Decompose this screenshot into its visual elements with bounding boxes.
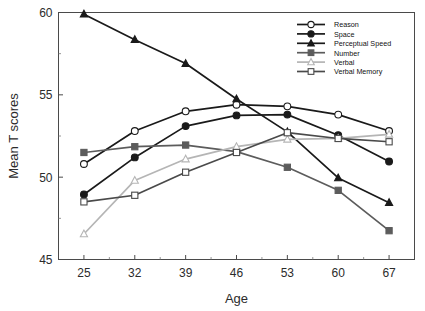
marker-square [335,135,341,141]
marker-circle [182,108,189,115]
legend-label: Number [334,49,360,58]
x-tick-label: 39 [179,266,193,280]
marker-square [386,228,392,234]
legend-label: Perceptual Speed [334,39,391,48]
chart-legend: ReasonSpacePerceptual SpeedNumberVerbalV… [297,20,391,76]
marker-triangle [233,95,240,102]
marker-circle [182,123,189,130]
y-axis-title: Mean T scores [6,93,21,179]
marker-circle [308,31,314,37]
marker-circle [284,111,291,118]
marker-square [132,144,138,150]
legend-label: Reason [334,20,359,29]
marker-square [183,142,189,148]
marker-circle [386,158,393,165]
marker-circle [233,101,240,108]
x-tick-label: 67 [382,266,396,280]
marker-circle [335,111,342,118]
x-tick-label: 53 [281,266,295,280]
marker-circle [284,103,291,110]
marker-square [284,164,290,170]
marker-triangle [80,10,87,17]
x-axis-title: Age [225,291,248,306]
marker-square [81,199,87,205]
marker-circle [308,21,314,27]
marker-square [284,130,290,136]
y-tick-label: 60 [39,6,53,20]
x-tick-label: 60 [332,266,346,280]
x-tick-label: 25 [77,266,91,280]
series-verbal-memory [81,130,392,205]
marker-square [335,187,341,193]
y-tick-label: 50 [39,171,53,185]
marker-circle [81,191,88,198]
y-axis-ticks: 45505560 [39,6,63,267]
line-chart: 45505560 25323946536067 ReasonSpacePerce… [0,0,425,311]
y-tick-label: 55 [39,88,53,102]
series-reason [81,101,393,167]
x-axis-ticks: 25323946536067 [77,255,396,280]
marker-square [132,192,138,198]
legend-label: Space [334,30,354,39]
y-tick-label: 45 [39,253,53,267]
marker-square [233,149,239,155]
series-line [84,145,389,231]
x-tick-label: 46 [230,266,244,280]
chart-container: 45505560 25323946536067 ReasonSpacePerce… [0,0,425,311]
marker-square [183,169,189,175]
marker-circle [131,154,138,161]
marker-circle [233,112,240,119]
marker-circle [131,128,138,135]
marker-square [386,139,392,145]
legend-label: Verbal [334,58,355,67]
series-verbal [80,130,392,236]
x-tick-label: 32 [128,266,142,280]
legend-label: Verbal Memory [334,67,383,76]
marker-square [81,149,87,155]
marker-square [308,69,314,75]
marker-circle [81,161,88,168]
marker-square [308,50,314,56]
